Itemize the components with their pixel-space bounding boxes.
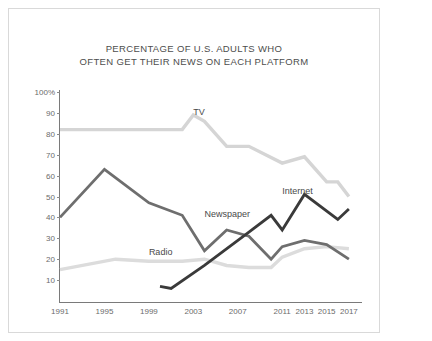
series-label-tv: TV: [193, 107, 205, 117]
y-axis-tick-label: 70: [46, 150, 55, 159]
series-label-radio: Radio: [149, 247, 173, 257]
chart-title: PERCENTAGE OF U.S. ADULTS WHO OFTEN GET …: [8, 42, 380, 68]
series-line-tv: [60, 115, 349, 197]
x-axis-tick-label: 2011: [274, 307, 291, 316]
chart-title-line-2: OFTEN GET THEIR NEWS ON EACH PLATFORM: [8, 55, 380, 68]
y-axis-tick-label: 20: [46, 255, 55, 264]
x-axis-line: [59, 302, 362, 303]
x-axis-tick-label: 2017: [340, 307, 358, 316]
x-axis-tick-label: 1995: [96, 307, 114, 316]
y-axis-tick-label: 60: [46, 171, 55, 180]
y-axis-tick-label: 30: [46, 234, 55, 243]
screenshot-root: PERCENTAGE OF U.S. ADULTS WHO OFTEN GET …: [0, 0, 432, 341]
x-axis-tick-label: 2007: [229, 307, 247, 316]
y-axis-tick-label: 50: [46, 192, 55, 201]
series-lines: [60, 92, 360, 301]
y-axis-tick-label: 10: [46, 276, 55, 285]
scroll-rail: [392, 0, 432, 341]
x-axis-tick-label: 1999: [140, 307, 158, 316]
line-chart: PERCENTAGE OF U.S. ADULTS WHO OFTEN GET …: [8, 8, 380, 333]
x-axis-tick-label: 2013: [296, 307, 314, 316]
y-axis-tick-label: 80: [46, 129, 55, 138]
x-axis-tick-label: 2015: [318, 307, 336, 316]
x-axis-tick-label: 2003: [184, 307, 202, 316]
chart-title-line-1: PERCENTAGE OF U.S. ADULTS WHO: [8, 42, 380, 55]
series-label-internet: Internet: [282, 186, 313, 196]
plot-area: 100%908070605040302010 19911995199920032…: [60, 92, 360, 301]
y-axis-tick-label: 100%: [35, 88, 55, 97]
y-axis-tick-label: 40: [46, 213, 55, 222]
y-axis-tick-label: 90: [46, 108, 55, 117]
x-axis-tick-label: 1991: [51, 307, 69, 316]
series-label-newspaper: Newspaper: [204, 209, 250, 219]
